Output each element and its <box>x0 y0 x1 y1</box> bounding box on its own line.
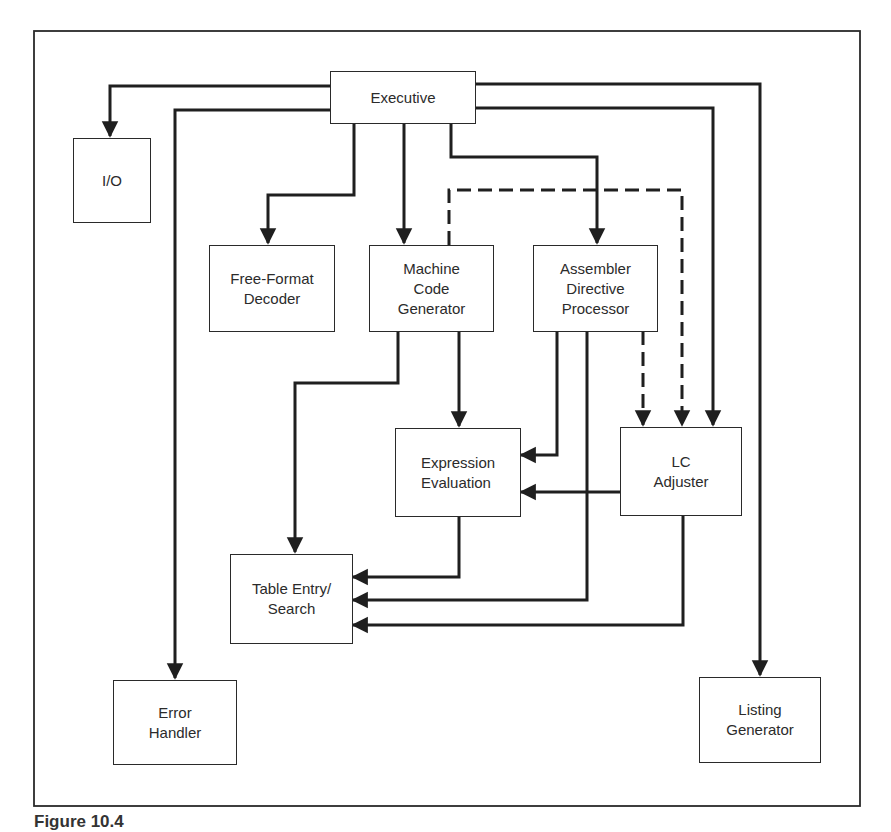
node-free-format-decoder: Free-Format Decoder <box>209 245 335 332</box>
node-free-format-decoder-label: Free-Format Decoder <box>230 269 313 309</box>
node-assembler-directive-processor: Assembler Directive Processor <box>533 245 658 332</box>
node-error-handler: Error Handler <box>113 680 237 765</box>
node-table-entry-search: Table Entry/ Search <box>230 554 353 644</box>
node-lc-adjuster: LC Adjuster <box>620 427 742 516</box>
node-machine-code-generator: Machine Code Generator <box>369 245 494 332</box>
node-error-handler-label: Error Handler <box>149 703 202 743</box>
node-executive: Executive <box>330 71 476 124</box>
edge-executive-listing-generator <box>475 84 760 675</box>
node-listing-generator: Listing Generator <box>699 677 821 763</box>
edge-lc-table-entry <box>353 515 683 625</box>
node-assembler-directive-processor-label: Assembler Directive Processor <box>560 259 631 319</box>
node-expression-evaluation-label: Expression Evaluation <box>421 453 495 493</box>
edge-expression-table-entry <box>353 516 459 577</box>
node-listing-generator-label: Listing Generator <box>726 700 794 740</box>
edge-executive-free-format-decoder <box>268 123 354 243</box>
figure-caption: Figure 10.4 <box>34 812 124 832</box>
node-table-entry-search-label: Table Entry/ Search <box>252 579 331 619</box>
node-expression-evaluation: Expression Evaluation <box>395 428 521 517</box>
node-lc-adjuster-label: LC Adjuster <box>653 452 708 492</box>
node-machine-code-generator-label: Machine Code Generator <box>398 259 466 319</box>
edge-adp-expression-evaluation <box>521 331 557 455</box>
node-executive-label: Executive <box>370 88 435 108</box>
node-io: I/O <box>73 138 151 223</box>
edge-mcg-table-entry <box>295 331 398 552</box>
edge-executive-assembler-directive-processor <box>451 123 597 243</box>
node-io-label: I/O <box>102 171 122 191</box>
